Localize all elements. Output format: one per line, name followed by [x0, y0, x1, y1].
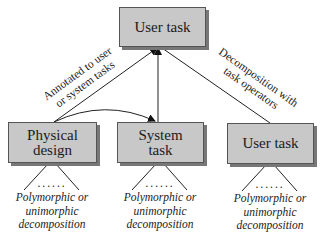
- node-label: User task: [242, 136, 298, 151]
- caption-line3: decomposition: [215, 219, 324, 233]
- node-right-user-task: User task: [227, 123, 314, 164]
- ellipsis-physical: ......: [0, 177, 107, 191]
- caption-line1: Polymorphic or: [105, 191, 215, 205]
- caption-line1: Polymorphic or: [215, 192, 324, 206]
- node-label-line2: design: [33, 143, 72, 158]
- node-label-line2: task: [148, 143, 172, 158]
- caption-line3: decomposition: [0, 218, 107, 232]
- node-label-line1: System: [138, 128, 182, 143]
- caption-system-task: Polymorphic or unimorphic decomposition: [105, 191, 215, 232]
- ellipsis-system: ......: [105, 177, 215, 191]
- caption-physical-design: Polymorphic or unimorphic decomposition: [0, 191, 107, 232]
- caption-right-user-task: Polymorphic or unimorphic decomposition: [215, 192, 324, 233]
- ellipsis-right-user: ......: [215, 178, 324, 192]
- caption-line2: unimorphic: [215, 206, 324, 220]
- caption-line2: unimorphic: [105, 205, 215, 219]
- caption-line1: Polymorphic or: [0, 191, 107, 205]
- caption-line3: decomposition: [105, 218, 215, 232]
- node-label-line1: Physical: [27, 128, 78, 143]
- node-physical-design: Physical design: [8, 122, 97, 163]
- node-top-user-task: User task: [119, 7, 206, 47]
- node-system-task: System task: [117, 122, 204, 163]
- caption-line2: unimorphic: [0, 205, 107, 219]
- node-label: User task: [134, 20, 190, 35]
